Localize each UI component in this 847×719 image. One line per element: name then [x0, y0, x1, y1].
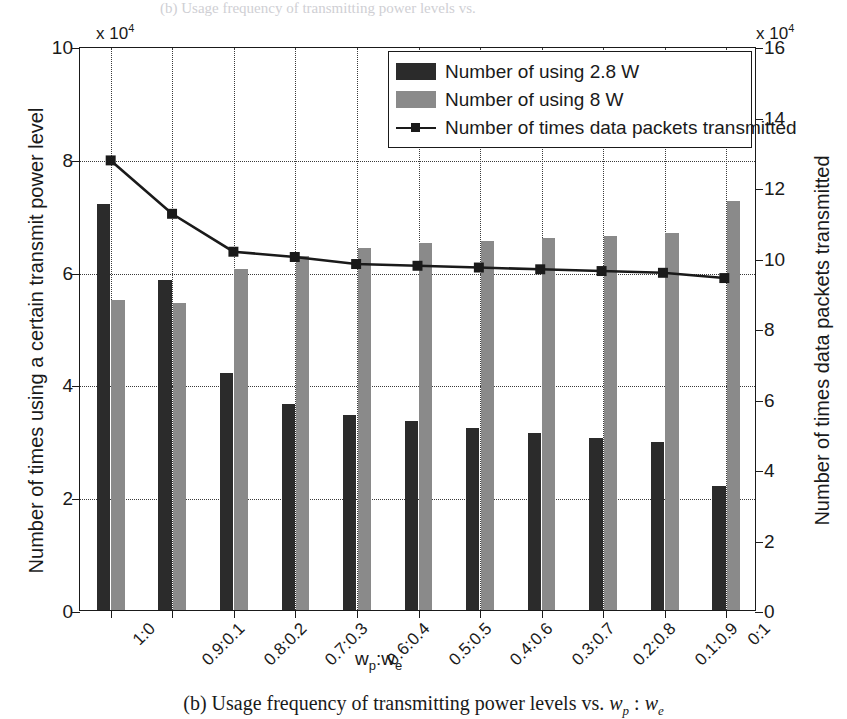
legend-item-1: Number of using 8 W [396, 85, 744, 113]
x-axis-title-wp: w [355, 648, 369, 669]
bar [97, 204, 110, 610]
left-axis-multiplier: x 104 [96, 22, 134, 44]
bar [727, 201, 740, 610]
right-axis-title-wrapper: Number of times data packets transmitted [812, 47, 832, 611]
right-axis-tick-label: 12 [764, 179, 804, 198]
left-axis-multiplier-exponent: 4 [128, 22, 134, 34]
legend-swatch-light-icon [396, 91, 436, 108]
x-axis-tick-label: 1:0 [129, 619, 160, 650]
left-axis-title-wrapper: Number of times using a certain transmit… [8, 47, 28, 611]
figure-caption: (b) Usage frequency of transmitting powe… [0, 692, 847, 719]
bar [111, 300, 124, 610]
left-axis-tick-mark [72, 48, 80, 49]
bar [604, 236, 617, 610]
right-axis-multiplier-exponent: 4 [788, 22, 794, 34]
x-axis-title-wp-sub: p [369, 658, 376, 673]
x-axis-tick-label: 0.5:0.5 [445, 619, 496, 670]
legend-label-1: Number of using 8 W [445, 90, 623, 109]
figure-panel-b: (b) Usage frequency of transmitting powe… [0, 0, 847, 719]
legend: Number of using 2.8 W Number of using 8 … [388, 51, 752, 148]
page-bleed-artifact: (b) Usage frequency of transmitting powe… [160, 0, 700, 16]
left-axis-title: Number of times using a certain transmit… [25, 71, 48, 611]
left-axis-tick-mark [72, 386, 80, 387]
right-axis-tick-label: 10 [764, 249, 804, 268]
bar [665, 233, 678, 610]
right-axis-tick-label: 8 [764, 320, 804, 339]
x-axis-tick-label: 0.2:0.8 [629, 619, 680, 670]
caption-prefix: (b) Usage frequency of transmitting powe… [183, 692, 609, 714]
bar [343, 415, 356, 610]
bar [158, 280, 171, 610]
x-axis-title-colon: :w [376, 648, 395, 669]
caption-wp: w [609, 692, 622, 714]
right-axis-tick-label: 4 [764, 461, 804, 480]
x-axis-tick-label: 0.4:0.6 [506, 619, 557, 670]
bar [466, 428, 479, 610]
right-axis-tick-label: 2 [764, 531, 804, 550]
right-axis-title: Number of times data packets transmitted [811, 71, 834, 611]
right-axis-tick-mark [755, 330, 763, 331]
left-axis-tick-label: 10 [33, 38, 73, 57]
bar [481, 241, 494, 610]
right-axis-tick-mark [755, 401, 763, 402]
left-axis-tick-mark [72, 499, 80, 500]
legend-label-2: Number of times data packets transmitted [445, 118, 797, 137]
x-axis-title-we-sub: e [395, 658, 402, 673]
bar [220, 373, 233, 610]
bar [542, 238, 555, 610]
x-axis-title: wp:we [355, 648, 402, 673]
legend-line-marker-icon [396, 119, 436, 136]
right-axis-tick-mark [755, 612, 763, 613]
left-axis-tick-mark [72, 161, 80, 162]
x-axis-tick-label: 0:1 [744, 619, 775, 650]
right-axis-tick-mark [755, 189, 763, 190]
bar [234, 269, 247, 610]
bar [589, 438, 602, 610]
bar [419, 243, 432, 610]
legend-item-0: Number of using 2.8 W [396, 57, 744, 85]
bar [173, 303, 186, 610]
x-axis-tick-labels: 1:00.9:0.10.8:0.20.7:0.30.6:0.40.5:0.50.… [79, 611, 756, 681]
caption-separator: : [629, 692, 645, 714]
x-axis-tick-label: 0.8:0.2 [260, 619, 311, 670]
x-axis-tick-label: 0.3:0.7 [568, 619, 619, 670]
bar [282, 404, 295, 610]
left-axis-tick-mark [72, 274, 80, 275]
legend-swatch-dark-icon [396, 63, 436, 80]
bar [358, 248, 371, 610]
right-axis-tick-mark [755, 471, 763, 472]
right-axis-tick-mark [755, 48, 763, 49]
caption-we: w [645, 692, 658, 714]
gridline-horizontal [80, 161, 755, 162]
right-axis-tick-mark [755, 542, 763, 543]
caption-we-sub: e [658, 703, 664, 718]
right-axis-tick-label: 6 [764, 390, 804, 409]
legend-label-0: Number of using 2.8 W [445, 62, 639, 81]
bar [405, 421, 418, 610]
x-axis-tick-label: 0.9:0.1 [199, 619, 250, 670]
bar [712, 486, 725, 610]
bar [651, 442, 664, 610]
right-axis-tick-mark [755, 260, 763, 261]
legend-item-2: Number of times data packets transmitted [396, 113, 744, 141]
bar [528, 433, 541, 610]
left-axis-multiplier-base: x 10 [96, 24, 128, 43]
bar [296, 256, 309, 610]
line-path [111, 160, 725, 278]
right-axis-tick-label: 0 [764, 602, 804, 621]
x-axis-tick-label: 0.1:0.9 [691, 619, 742, 670]
gridline-horizontal [80, 274, 755, 275]
right-axis-tick-label: 16 [764, 38, 804, 57]
